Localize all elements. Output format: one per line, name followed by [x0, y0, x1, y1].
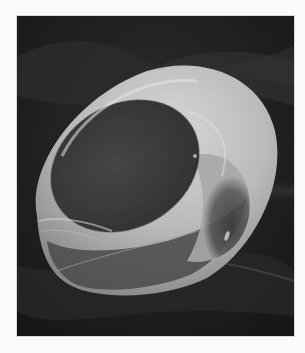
- sem-micrograph: [17, 16, 294, 336]
- page: [0, 0, 305, 353]
- red-blood-cell-illustration: [17, 16, 294, 336]
